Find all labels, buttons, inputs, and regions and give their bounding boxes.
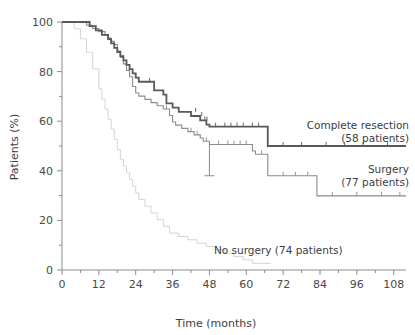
y-axis-title: Patients (%): [8, 114, 21, 181]
surgery-label: Surgery: [368, 163, 409, 175]
y-tick-label: 100: [32, 16, 53, 29]
x-tick-label: 60: [239, 278, 253, 291]
x-tick-label: 96: [350, 278, 364, 291]
y-tick-label: 40: [39, 165, 53, 178]
x-tick-label: 36: [166, 278, 180, 291]
complete-resection-label-count: (58 patients): [341, 132, 409, 144]
y-tick-label: 80: [39, 66, 53, 79]
survival-plot-svg: 01224364860728496108 020406080100 Comple…: [0, 0, 415, 335]
x-tick-label: 0: [59, 278, 66, 291]
surgery-label-count: (77 patients): [341, 176, 409, 188]
x-tick-label: 84: [313, 278, 327, 291]
x-axis-title: Time (months): [175, 317, 256, 330]
x-tick-label: 72: [276, 278, 290, 291]
y-tick-label: 0: [46, 264, 53, 277]
x-tick-label: 24: [129, 278, 143, 291]
complete-resection-label: Complete resection: [307, 119, 409, 131]
no-surgery-label: No surgery (74 patients): [214, 244, 343, 256]
x-tick-label: 108: [383, 278, 404, 291]
x-tick-label: 12: [92, 278, 106, 291]
y-tick-label: 20: [39, 214, 53, 227]
y-tick-label: 60: [39, 115, 53, 128]
x-tick-label: 48: [202, 278, 216, 291]
kaplan-meier-chart: 01224364860728496108 020406080100 Comple…: [0, 0, 415, 335]
